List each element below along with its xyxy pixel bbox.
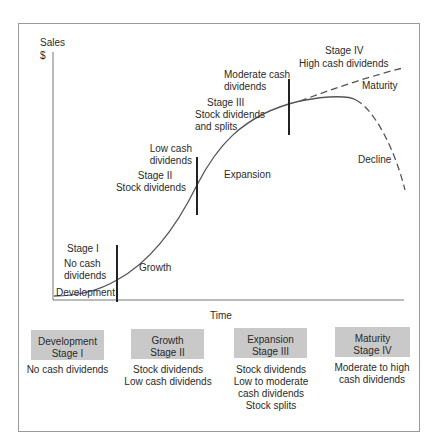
legend-box-stage3: ExpansionStage III <box>234 328 307 358</box>
stage2-label: Stage II <box>110 170 200 182</box>
legend-box-stage1: DevelopmentStage I <box>31 330 104 360</box>
stage3-moderate-note: Moderate cash <box>224 69 290 81</box>
legend-box-stage4: MaturityStage IV <box>335 327 410 357</box>
stage3-moderate-note: dividends <box>224 81 266 93</box>
phase-growth: Growth <box>139 262 171 274</box>
y-axis-label: Sales <box>40 37 65 49</box>
legend-desc-stage2: Stock dividendsLow cash dividends <box>118 364 218 388</box>
decline-curve <box>356 100 405 190</box>
x-axis-label: Time <box>210 310 232 322</box>
legend-desc-stage4: Moderate to highcash dividends <box>322 362 422 386</box>
stage3-note: and splits <box>195 121 237 133</box>
phase-expansion: Expansion <box>224 169 271 181</box>
legend-desc-stage3: Stock dividendsLow to moderatecash divid… <box>222 364 320 412</box>
phase-decline: Decline <box>358 154 391 166</box>
stage3-label: Stage III <box>207 97 244 109</box>
stage3-note: Stock dividends <box>195 109 265 121</box>
phase-maturity: Maturity <box>362 80 398 92</box>
phase-development: Development <box>56 287 115 299</box>
stage2-note: dividends <box>130 155 192 167</box>
stage2-note: Low cash <box>130 143 192 155</box>
stage1-note: No cash <box>64 258 101 270</box>
stage1-note: dividends <box>64 270 106 282</box>
stage2-note: Stock dividends <box>100 182 186 194</box>
legend-desc-stage1: No cash dividends <box>20 364 115 376</box>
stage4-note: High cash dividends <box>299 58 389 70</box>
y-axis-unit: $ <box>40 50 46 62</box>
legend-box-stage2: GrowthStage II <box>131 329 204 359</box>
stage1-label: Stage I <box>67 243 99 255</box>
stage4-label: Stage IV <box>325 45 363 57</box>
